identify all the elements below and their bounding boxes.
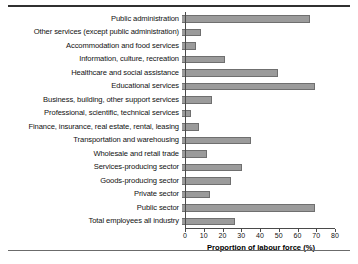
y-axis-line — [185, 12, 186, 229]
category-label: Goods-producing sector — [0, 177, 182, 185]
bar-row: Finance, insurance, real estate, rental,… — [0, 120, 358, 134]
bar — [182, 191, 210, 199]
bar-track — [182, 93, 358, 107]
bar-row: Information, culture, recreation — [0, 53, 358, 67]
bar-row: Public administration — [0, 12, 358, 26]
bar-track — [182, 215, 358, 229]
bar-track — [182, 147, 358, 161]
category-label: Accommodation and food services — [0, 42, 182, 50]
bar-chart-figure: Public administrationOther services (exc… — [0, 0, 358, 264]
category-label: Finance, insurance, real estate, rental,… — [0, 123, 182, 131]
bar-track — [182, 53, 358, 67]
bar — [182, 164, 242, 172]
bar-row: Accommodation and food services — [0, 39, 358, 53]
x-axis-tick-label: 40 — [256, 232, 264, 240]
category-label: Professional, scientific, technical serv… — [0, 109, 182, 117]
category-label: Services-producing sector — [0, 163, 182, 171]
x-axis-tick-label: 30 — [237, 232, 245, 240]
bar-track — [182, 66, 358, 80]
bar — [182, 204, 315, 212]
category-label: Healthcare and social assistance — [0, 69, 182, 77]
bar-track — [182, 161, 358, 175]
bar-row: Other services (except public administra… — [0, 26, 358, 40]
bar-row: Professional, scientific, technical serv… — [0, 107, 358, 121]
x-axis-tick-label: 70 — [312, 232, 320, 240]
bar — [182, 218, 235, 226]
bar-row: Business, building, other support servic… — [0, 93, 358, 107]
category-label: Wholesale and retail trade — [0, 150, 182, 158]
bar — [182, 96, 212, 104]
bar-row: Private sector — [0, 188, 358, 202]
bar — [182, 69, 278, 77]
bar — [182, 56, 225, 64]
bar-track — [182, 107, 358, 121]
plot-area: Public administrationOther services (exc… — [0, 12, 358, 224]
bottom-divider-rule — [8, 250, 350, 251]
category-label: Information, culture, recreation — [0, 55, 182, 63]
bar-track — [182, 134, 358, 148]
category-label: Public sector — [0, 204, 182, 212]
bar-track — [182, 174, 358, 188]
x-axis-tick-label: 60 — [294, 232, 302, 240]
bar — [182, 137, 251, 145]
bar-row: Healthcare and social assistance — [0, 66, 358, 80]
x-axis-tick-label: 50 — [275, 232, 283, 240]
x-axis-tick-label: 0 — [183, 232, 187, 240]
bar-row: Educational services — [0, 80, 358, 94]
bar-track — [182, 188, 358, 202]
top-divider-rule — [8, 5, 350, 7]
x-axis-tick-label: 80 — [331, 232, 339, 240]
bar-track — [182, 26, 358, 40]
bar — [182, 177, 231, 185]
bar-track — [182, 12, 358, 26]
bar-track — [182, 201, 358, 215]
bar-rows: Public administrationOther services (exc… — [0, 12, 358, 228]
bar-track — [182, 39, 358, 53]
bar — [182, 83, 315, 91]
bar-row: Total employees all industry — [0, 215, 358, 229]
bar — [182, 110, 191, 118]
bar-row: Services-producing sector — [0, 161, 358, 175]
x-axis-tick-label: 20 — [219, 232, 227, 240]
bar — [182, 15, 310, 23]
x-axis-tick-label: 10 — [200, 232, 208, 240]
bar-row: Transportation and warehousing — [0, 134, 358, 148]
bar-track — [182, 120, 358, 134]
bar-row: Wholesale and retail trade — [0, 147, 358, 161]
category-label: Transportation and warehousing — [0, 136, 182, 144]
bar-row: Public sector — [0, 201, 358, 215]
category-label: Business, building, other support servic… — [0, 96, 182, 104]
category-label: Educational services — [0, 82, 182, 90]
category-label: Public administration — [0, 15, 182, 23]
category-label: Private sector — [0, 190, 182, 198]
bar-track — [182, 80, 358, 94]
bar-row: Goods-producing sector — [0, 174, 358, 188]
category-label: Other services (except public administra… — [0, 28, 182, 36]
category-label: Total employees all industry — [0, 217, 182, 225]
